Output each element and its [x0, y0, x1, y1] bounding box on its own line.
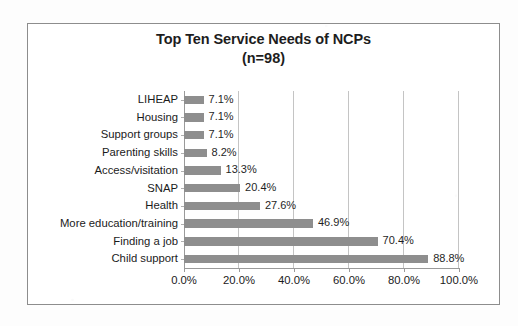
- category-label: Access/visitation: [94, 162, 178, 180]
- bar: [184, 166, 221, 174]
- category-label: Finding a job: [113, 233, 178, 251]
- bar: [184, 96, 204, 104]
- bar: [184, 237, 378, 245]
- category-label: SNAP: [147, 180, 178, 198]
- bar-value-label: 8.2%: [212, 144, 237, 162]
- category-label: LIHEAP: [138, 91, 178, 109]
- category-label: Health: [145, 197, 178, 215]
- bar-row: Child support 88.8%: [184, 250, 459, 268]
- bar-row: SNAP 20.4%: [184, 180, 459, 198]
- bar-row: Parenting skills 8.2%: [184, 144, 459, 162]
- x-axis-tick: [404, 268, 405, 272]
- plot-area: LIHEAP 7.1% Housing 7.1% Support groups …: [184, 91, 459, 268]
- bar-value-label: 7.1%: [209, 108, 234, 126]
- bar-value-label: 46.9%: [318, 214, 349, 232]
- bar: [184, 184, 240, 192]
- bar-value-label: 20.4%: [245, 179, 276, 197]
- x-axis-label: 80.0%: [388, 274, 420, 286]
- bar: [184, 255, 428, 263]
- x-axis-tick: [349, 268, 350, 272]
- bar-row: Access/visitation 13.3%: [184, 162, 459, 180]
- x-axis-label: 60.0%: [333, 274, 365, 286]
- bar-value-label: 27.6%: [265, 197, 296, 215]
- bar-row: Housing 7.1%: [184, 109, 459, 127]
- x-axis-tick: [184, 268, 185, 272]
- category-label: Parenting skills: [102, 144, 178, 162]
- category-label: Housing: [137, 109, 178, 127]
- bar: [184, 113, 204, 121]
- chart-screenshot: { "chart_data": { "type": "bar", "orient…: [0, 0, 518, 326]
- bar: [184, 219, 313, 227]
- bar-value-label: 88.8%: [433, 250, 464, 268]
- bar-value-label: 7.1%: [209, 91, 234, 109]
- bar: [184, 149, 207, 157]
- chart-frame: Top Ten Service Needs of NCPs (n=98) LIH…: [27, 23, 500, 305]
- x-axis-tick: [239, 268, 240, 272]
- bar-row: LIHEAP 7.1%: [184, 91, 459, 109]
- bar-row: Support groups 7.1%: [184, 126, 459, 144]
- bar: [184, 131, 204, 139]
- category-label: Support groups: [101, 126, 178, 144]
- x-axis-label: 20.0%: [223, 274, 255, 286]
- x-axis-tick: [459, 268, 460, 272]
- category-label: More education/training: [60, 215, 178, 233]
- category-axis-line: [184, 268, 460, 269]
- x-axis-tick: [294, 268, 295, 272]
- chart-title: Top Ten Service Needs of NCPs: [28, 30, 499, 49]
- bar-row: Health 27.6%: [184, 197, 459, 215]
- chart-subtitle: (n=98): [28, 49, 499, 68]
- x-axis-label: 100.0%: [440, 274, 478, 286]
- category-label: Child support: [111, 250, 178, 268]
- bar-row: Finding a job 70.4%: [184, 233, 459, 251]
- x-axis-label: 0.0%: [171, 274, 197, 286]
- bar: [184, 202, 260, 210]
- x-axis-label: 40.0%: [278, 274, 310, 286]
- bar-value-label: 13.3%: [226, 161, 257, 179]
- bar-value-label: 70.4%: [383, 232, 414, 250]
- bar-row: More education/training 46.9%: [184, 215, 459, 233]
- bar-value-label: 7.1%: [209, 126, 234, 144]
